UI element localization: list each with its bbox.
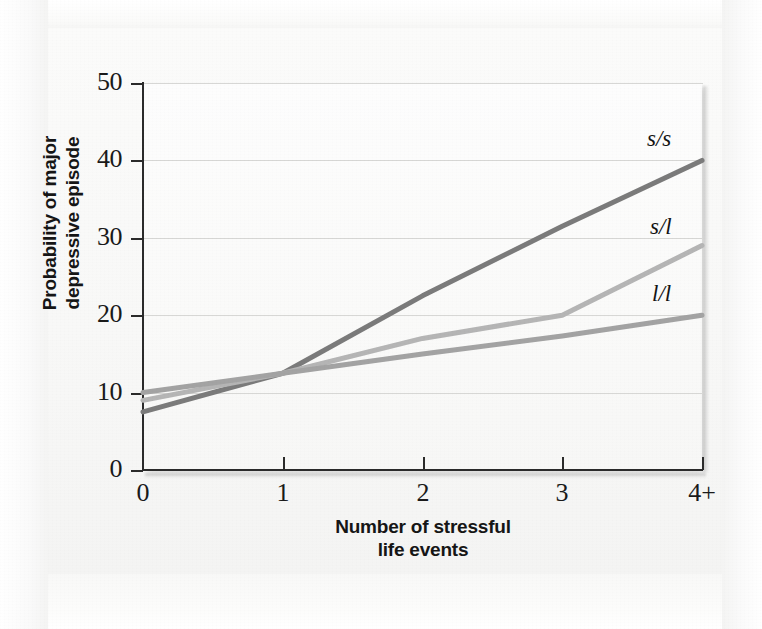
series-label-s-s: s/s xyxy=(647,126,671,152)
figure-page: 01020304050 01234+ s/ss/ll/l Probability… xyxy=(0,0,762,629)
y-axis-title-line1: Probability of major xyxy=(39,136,60,310)
series-label-l-l: l/l xyxy=(652,281,671,307)
x-tick-label-0: 0 xyxy=(113,478,173,508)
series-line-l-l xyxy=(143,315,702,392)
x-tick-label-2: 2 xyxy=(393,478,453,508)
plot-right-shadow xyxy=(703,86,709,472)
x-axis-title: Number of stressful life events xyxy=(143,515,703,561)
x-axis-title-line2: life events xyxy=(378,539,469,560)
x-axis-title-line1: Number of stressful xyxy=(335,516,511,537)
x-tick-label-3: 3 xyxy=(532,478,592,508)
y-axis-title-line2: depressive episode xyxy=(62,137,83,310)
series-label-s-l: s/l xyxy=(650,214,672,240)
page-margin-right xyxy=(722,0,762,629)
y-axis-title: Probability of major depressive episode xyxy=(38,58,84,388)
page-margin-top xyxy=(0,0,762,28)
x-tick-label-4+: 4+ xyxy=(672,478,732,508)
x-tick-label-1: 1 xyxy=(253,478,313,508)
series-lines xyxy=(143,83,702,470)
series-line-s-l xyxy=(143,246,702,401)
